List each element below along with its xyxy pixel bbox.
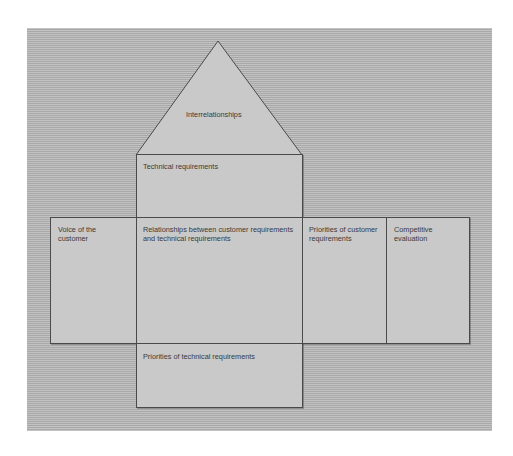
voice-of-customer-label: Voice of the customer xyxy=(58,225,128,243)
priorities-customer-label: Priorities of customer requirements xyxy=(309,225,379,243)
divider-right xyxy=(386,217,387,344)
relationships-label: Relationships between customer requireme… xyxy=(143,225,295,243)
divider-center-right xyxy=(302,217,303,344)
technical-requirements-label: Technical requirements xyxy=(143,162,293,171)
roof-label: Interrelationships xyxy=(186,110,242,119)
divider-left xyxy=(136,217,137,344)
priorities-technical-label: Priorities of technical requirements xyxy=(143,352,298,361)
competitive-evaluation-label: Competitive evaluation xyxy=(394,225,454,243)
